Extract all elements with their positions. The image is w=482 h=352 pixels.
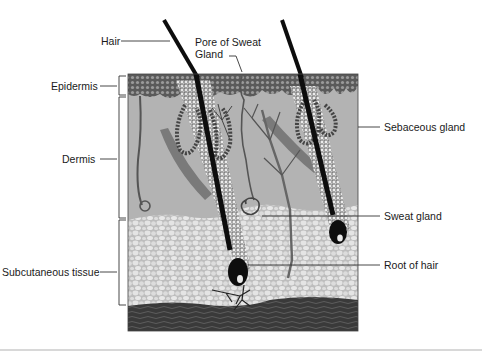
label-pore-line2: Gland	[195, 48, 223, 60]
label-dermis: Dermis	[62, 153, 95, 165]
label-epidermis: Epidermis	[51, 80, 98, 92]
label-hair: Hair	[101, 35, 120, 47]
hair-shaft-left	[164, 20, 198, 78]
label-pore-line1: Pore of Sweat	[195, 36, 261, 48]
hair-shaft-right	[282, 20, 302, 78]
label-subcutaneous: Subcutaneous tissue	[2, 266, 99, 278]
skin-layers	[128, 74, 358, 331]
label-sweat-gland: Sweat gland	[384, 210, 442, 222]
label-root-of-hair: Root of hair	[384, 259, 438, 271]
skin-diagram: Hair Pore of Sweat Gland Epidermis Dermi…	[0, 0, 482, 352]
skin-cross-section-illustration	[0, 0, 482, 352]
label-sebaceous-gland: Sebaceous gland	[384, 121, 465, 133]
divider	[0, 349, 482, 351]
